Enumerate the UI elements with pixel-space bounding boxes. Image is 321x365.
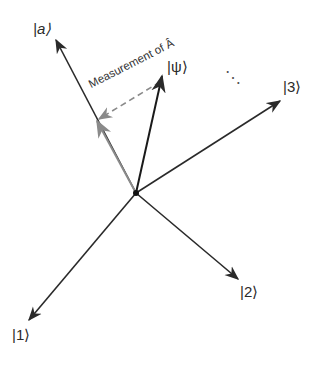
origin-point [133, 190, 139, 196]
label-2: |2⟩ [240, 283, 258, 301]
projection-vector [97, 121, 136, 193]
vector-2 [136, 193, 238, 279]
label-psi: |ψ⟩ [167, 58, 188, 76]
label-3: |3⟩ [283, 78, 301, 96]
label-1: |1⟩ [12, 326, 30, 344]
measurement-dashed-arrow [99, 82, 160, 119]
label-a: |a⟩ [33, 20, 51, 38]
ellipsis: ⋱ [225, 68, 241, 87]
vector-1 [29, 193, 136, 320]
vector-3 [136, 101, 280, 193]
